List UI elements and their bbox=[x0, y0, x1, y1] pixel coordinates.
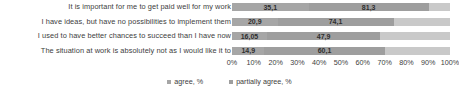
bar-value-label: 60,1 bbox=[318, 47, 332, 54]
x-axis-tick: 80% bbox=[399, 59, 413, 66]
bar-track: 20,9 74,1 bbox=[232, 18, 450, 26]
bar-track: 16,05 47,9 bbox=[232, 32, 450, 40]
bar-value-label: 35,1 bbox=[263, 3, 277, 10]
bar-value-label: 14,9 bbox=[241, 47, 255, 54]
bar-row: I have ideas, but have no possibilities … bbox=[0, 15, 459, 30]
bar-segment-agree[interactable]: 35,1 bbox=[232, 3, 309, 11]
bar-track: 14,9 60,1 bbox=[232, 47, 450, 55]
x-axis-tick: 70% bbox=[377, 59, 391, 66]
legend-label: partially agree, % bbox=[236, 78, 292, 85]
bar-segment-partially-agree[interactable]: 47,9 bbox=[267, 32, 380, 40]
bar-segment-agree[interactable]: 14,9 bbox=[232, 47, 264, 55]
x-axis-tick: 10% bbox=[247, 59, 261, 66]
legend-item-partially-agree[interactable]: partially agree, % bbox=[229, 78, 292, 85]
bar-row: I used to have better chances to succeed… bbox=[0, 29, 459, 44]
x-axis-tick: 20% bbox=[268, 59, 282, 66]
x-axis-tick: 50% bbox=[334, 59, 348, 66]
category-label: I have ideas, but have no possibilities … bbox=[42, 18, 232, 25]
bar-value-label: 16,05 bbox=[241, 32, 259, 39]
bar-row: The situation at work is absolutely not … bbox=[0, 44, 459, 59]
x-axis-tick: 40% bbox=[312, 59, 326, 66]
bar-value-label: 74,1 bbox=[329, 18, 343, 25]
bar-segment-agree[interactable]: 20,9 bbox=[232, 18, 278, 26]
category-label: It is important for me to get paid well … bbox=[68, 4, 231, 11]
bar-value-label: 20,9 bbox=[248, 18, 262, 25]
x-axis-tick: 90% bbox=[421, 59, 435, 66]
bar-segment-remainder bbox=[394, 18, 450, 26]
legend-swatch-icon bbox=[167, 80, 171, 84]
bar-segment-remainder bbox=[380, 32, 450, 40]
x-axis-tick: 0% bbox=[227, 59, 237, 66]
legend-swatch-icon bbox=[229, 80, 233, 84]
legend: agree, % partially agree, % bbox=[0, 78, 459, 85]
x-axis-tick: 30% bbox=[290, 59, 304, 66]
bar-segment-partially-agree[interactable]: 60,1 bbox=[264, 47, 384, 55]
x-axis-tick: 100% bbox=[441, 59, 459, 66]
x-axis-tick: 60% bbox=[356, 59, 370, 66]
plot-area: It is important for me to get paid well … bbox=[0, 0, 459, 58]
category-label: The situation at work is absolutely not … bbox=[41, 47, 231, 54]
bar-track: 35,1 81,3 bbox=[232, 3, 450, 11]
bar-row: It is important for me to get paid well … bbox=[0, 0, 459, 15]
bar-segment-agree[interactable]: 16,05 bbox=[232, 32, 267, 40]
bar-value-label: 81,3 bbox=[362, 3, 376, 10]
bar-segment-partially-agree[interactable]: 81,3 bbox=[309, 3, 429, 11]
bar-segment-remainder bbox=[429, 3, 450, 11]
x-axis: 0% 10% 20% 30% 40% 50% 60% 70% 80% 90% 1… bbox=[232, 59, 450, 71]
bar-segment-remainder bbox=[385, 47, 450, 55]
bar-value-label: 47,9 bbox=[317, 32, 331, 39]
bar-segment-partially-agree[interactable]: 74,1 bbox=[278, 18, 394, 26]
legend-label: agree, % bbox=[174, 78, 203, 85]
category-label: I used to have better chances to succeed… bbox=[38, 33, 231, 40]
legend-item-agree[interactable]: agree, % bbox=[167, 78, 203, 85]
stacked-bar-chart: It is important for me to get paid well … bbox=[0, 0, 459, 96]
